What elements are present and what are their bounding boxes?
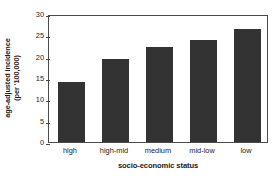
y-axis-title-line1: age-adjusted incidence [3, 38, 12, 118]
bar [58, 82, 85, 142]
x-axis-tick-label: mid-low [189, 146, 214, 156]
y-axis-title: age-adjusted incidence (per '100,000) [2, 12, 22, 144]
y-axis-tick-label: 25 [36, 32, 44, 40]
y-axis-tick-mark [46, 144, 50, 145]
y-axis-tick-label: 10 [36, 96, 44, 104]
x-axis-tick-label: low [240, 146, 251, 156]
bar-chart-figure: age-adjusted incidence (per '100,000) 05… [0, 0, 279, 181]
x-axis-tick-labels: highhigh-midmediummid-lowlow [48, 146, 268, 158]
y-axis-tick-label: 20 [36, 54, 44, 62]
y-axis-tick-label: 30 [36, 11, 44, 19]
y-axis-tick-labels: 051015202530 [26, 15, 44, 143]
bars-layer [49, 16, 267, 142]
x-axis-tick-label: high [63, 146, 77, 156]
y-axis-tick-label: 15 [36, 75, 44, 83]
y-axis-tick-label: 0 [40, 139, 44, 147]
bar [234, 29, 261, 142]
y-axis-title-line2: (per '100,000) [12, 55, 21, 101]
y-axis-tick-label: 5 [40, 118, 44, 126]
bar [102, 59, 129, 142]
x-axis-tick-label: medium [145, 146, 171, 156]
x-axis-title: socio-economic status [48, 161, 268, 170]
bar [146, 47, 173, 142]
plot-area [48, 15, 268, 143]
bar [190, 40, 217, 142]
x-axis-tick-label: high-mid [100, 146, 128, 156]
